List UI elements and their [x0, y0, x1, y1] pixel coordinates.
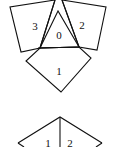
- bottom-left-lower-edge: [18, 143, 24, 147]
- bottom-label-1: 1: [45, 137, 51, 147]
- bottom-label-2: 2: [67, 137, 73, 147]
- label-0: 0: [56, 29, 62, 41]
- bottom-right-lower-edge: [96, 143, 102, 147]
- label-3: 3: [32, 20, 38, 32]
- dissection-diagram: 3 2 0 1 1 2: [0, 0, 117, 147]
- label-1: 1: [56, 65, 62, 77]
- label-2: 2: [79, 19, 85, 31]
- square-1-top-edge: [38, 47, 80, 48]
- top-figure: 3 2 0 1: [10, 0, 106, 92]
- square-3-edge: [40, 0, 55, 48]
- square-2-edge: [62, 0, 79, 47]
- bottom-figure: 1 2: [18, 117, 102, 147]
